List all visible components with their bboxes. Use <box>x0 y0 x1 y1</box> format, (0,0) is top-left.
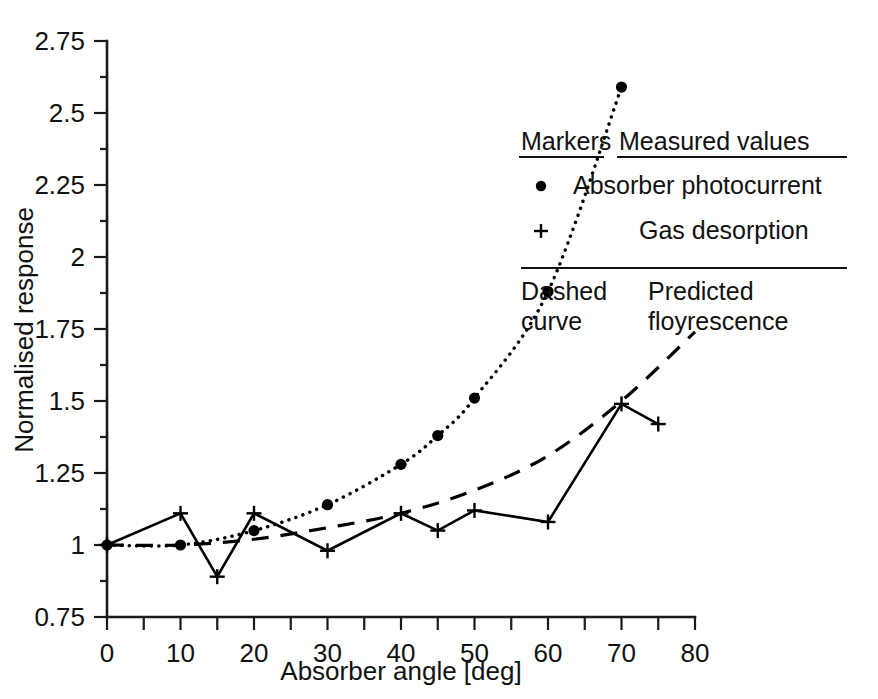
legend-footer-dashed-line2: curve <box>521 307 582 335</box>
data-point-dot <box>395 459 406 470</box>
y-tick-label: 2.25 <box>34 170 85 200</box>
legend-footer-dashed-line1: Dashed <box>521 277 607 305</box>
y-tick-label: 2.5 <box>49 98 85 128</box>
data-point-dot <box>322 499 333 510</box>
legend-header-measured-values: Measured values <box>619 127 809 155</box>
y-tick-label: 2 <box>71 242 85 272</box>
data-point-dot <box>616 81 627 92</box>
legend-footer-predicted-line2: floyrescence <box>648 307 788 335</box>
data-point-dot <box>432 430 443 441</box>
x-tick-label: 70 <box>607 638 636 668</box>
x-tick-label: 20 <box>240 638 269 668</box>
y-axis-title: Normalised response <box>9 207 39 453</box>
legend-label-absorber-photocurrent: Absorber photocurrent <box>573 171 822 199</box>
x-tick-label: 60 <box>534 638 563 668</box>
y-tick-label: 1.25 <box>34 458 85 488</box>
y-tick-label: 1.5 <box>49 386 85 416</box>
y-tick-label: 0.75 <box>34 602 85 632</box>
y-tick-label: 1.75 <box>34 314 85 344</box>
x-tick-label: 10 <box>166 638 195 668</box>
data-point-dot <box>469 393 480 404</box>
x-tick-label: 0 <box>100 638 114 668</box>
legend-dot-icon <box>536 181 546 191</box>
y-tick-label: 1 <box>71 530 85 560</box>
x-tick-label: 80 <box>681 638 710 668</box>
data-point-dot <box>248 525 259 536</box>
x-axis-title: Absorber angle [deg] <box>280 656 521 686</box>
y-tick-label: 2.75 <box>34 26 85 56</box>
legend-header-markers: Markers <box>521 127 611 155</box>
legend-label-gas-desorption: Gas desorption <box>639 216 809 244</box>
legend-footer-predicted-line1: Predicted <box>648 277 754 305</box>
data-point-dot <box>175 539 186 550</box>
normalised-response-line-chart: 0.7511.251.51.7522.252.52.75 01020304050… <box>0 0 878 699</box>
chart-background <box>0 0 878 699</box>
chart-figure: 0.7511.251.51.7522.252.52.75 01020304050… <box>0 0 878 699</box>
